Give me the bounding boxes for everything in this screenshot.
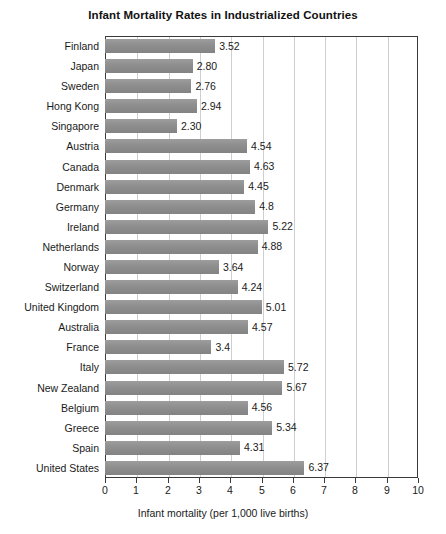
bar [105, 340, 211, 354]
category-label: Austria [0, 136, 99, 156]
bar-value-label: 3.52 [219, 39, 239, 54]
x-tick [324, 478, 325, 483]
x-tick [355, 478, 356, 483]
bar-value-label: 2.30 [181, 119, 201, 134]
bar-track: 4.57 [105, 317, 418, 337]
bar-row: Denmark4.45 [0, 177, 446, 197]
category-label: Germany [0, 197, 99, 217]
bar [105, 401, 248, 415]
x-tick [387, 478, 388, 483]
category-label: Greece [0, 418, 99, 438]
chart-title: Infant Mortality Rates in Industrialized… [0, 8, 446, 22]
bar-row: Spain4.31 [0, 438, 446, 458]
bar [105, 99, 197, 113]
bar-row: Canada4.63 [0, 157, 446, 177]
x-tick-label: 8 [340, 484, 370, 497]
bar-row: Sweden2.76 [0, 76, 446, 96]
category-label: United States [0, 458, 99, 478]
x-tick-label: 1 [121, 484, 151, 497]
bar [105, 139, 247, 153]
infant-mortality-bar-chart: Infant Mortality Rates in Industrialized… [0, 0, 446, 534]
category-label: Australia [0, 317, 99, 337]
bar-row: Belgium4.56 [0, 398, 446, 418]
bar-value-label: 5.34 [276, 420, 296, 435]
bar-track: 5.01 [105, 297, 418, 317]
x-tick-label: 5 [247, 484, 277, 497]
bar-track: 2.30 [105, 116, 418, 136]
bar-row: Austria4.54 [0, 136, 446, 156]
bar-track: 4.54 [105, 136, 418, 156]
bar-row: Greece5.34 [0, 418, 446, 438]
category-label: Norway [0, 257, 99, 277]
x-tick [168, 478, 169, 483]
bar-row: Norway3.64 [0, 257, 446, 277]
bar [105, 260, 219, 274]
bar-value-label: 3.4 [215, 340, 230, 355]
bar-row: Australia4.57 [0, 317, 446, 337]
bar [105, 59, 193, 73]
bar-rows: Finland3.52Japan2.80Sweden2.76Hong Kong2… [0, 36, 446, 478]
bar [105, 381, 282, 395]
bar-value-label: 5.67 [286, 380, 306, 395]
bar-value-label: 4.24 [242, 280, 262, 295]
category-label: Switzerland [0, 277, 99, 297]
bar [105, 39, 215, 53]
bar-track: 2.80 [105, 56, 418, 76]
bar-row: Singapore2.30 [0, 116, 446, 136]
bar-value-label: 5.01 [266, 300, 286, 315]
category-label: United Kingdom [0, 297, 99, 317]
x-tick [262, 478, 263, 483]
bar-track: 4.8 [105, 197, 418, 217]
bar-row: New Zealand5.67 [0, 378, 446, 398]
category-label: Netherlands [0, 237, 99, 257]
category-label: Denmark [0, 177, 99, 197]
bar-track: 3.64 [105, 257, 418, 277]
bar-track: 4.63 [105, 157, 418, 177]
bar-value-label: 2.76 [195, 79, 215, 94]
bar [105, 360, 284, 374]
category-label: Canada [0, 157, 99, 177]
x-tick-label: 2 [153, 484, 183, 497]
bar [105, 220, 268, 234]
x-tick-label: 10 [403, 484, 433, 497]
category-label: Italy [0, 357, 99, 377]
bar-value-label: 2.80 [197, 59, 217, 74]
x-tick [136, 478, 137, 483]
bar-value-label: 4.63 [254, 159, 274, 174]
category-label: Ireland [0, 217, 99, 237]
x-tick [293, 478, 294, 483]
bar-row: Japan2.80 [0, 56, 446, 76]
category-label: New Zealand [0, 378, 99, 398]
bar-value-label: 5.22 [272, 219, 292, 234]
bar-track: 4.88 [105, 237, 418, 257]
bar-row: Switzerland4.24 [0, 277, 446, 297]
bar [105, 200, 255, 214]
x-axis-title: Infant mortality (per 1,000 live births) [0, 506, 446, 520]
bar-value-label: 4.88 [262, 239, 282, 254]
bar-track: 5.34 [105, 418, 418, 438]
bar-value-label: 2.94 [201, 99, 221, 114]
bar-value-label: 4.8 [259, 199, 274, 214]
bar [105, 461, 304, 475]
bar [105, 180, 244, 194]
bar-row: United States6.37 [0, 458, 446, 478]
bar [105, 421, 272, 435]
bar [105, 79, 191, 93]
bar-value-label: 6.37 [308, 460, 328, 475]
bar-track: 3.52 [105, 36, 418, 56]
bar-track: 4.24 [105, 277, 418, 297]
category-label: Sweden [0, 76, 99, 96]
bar-row: Finland3.52 [0, 36, 446, 56]
category-label: Hong Kong [0, 96, 99, 116]
x-tick-label: 6 [278, 484, 308, 497]
bar-track: 2.76 [105, 76, 418, 96]
bar-row: United Kingdom5.01 [0, 297, 446, 317]
bar [105, 280, 238, 294]
category-label: France [0, 337, 99, 357]
x-tick [230, 478, 231, 483]
x-tick-label: 0 [90, 484, 120, 497]
bar-track: 4.56 [105, 398, 418, 418]
bar [105, 320, 248, 334]
bar-row: Italy5.72 [0, 357, 446, 377]
bar [105, 160, 250, 174]
